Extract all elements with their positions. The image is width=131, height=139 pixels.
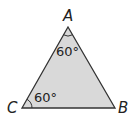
vertex-label-b: B bbox=[118, 99, 128, 117]
angle-label-c: 60° bbox=[34, 90, 57, 105]
triangle-diagram: A B C 60° 60° bbox=[0, 0, 131, 139]
angle-label-a: 60° bbox=[56, 44, 79, 59]
vertex-label-a: A bbox=[62, 7, 73, 25]
triangle-figure: A B C 60° 60° bbox=[0, 0, 131, 139]
vertex-label-c: C bbox=[7, 99, 18, 117]
